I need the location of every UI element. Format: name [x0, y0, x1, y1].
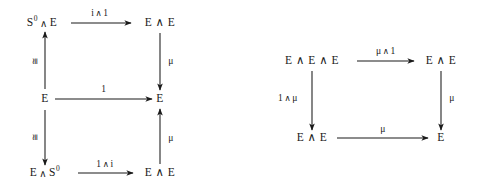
arrow-label-left-right-lower-mu: μ [168, 134, 174, 144]
node-left-middle-left: E [41, 93, 49, 105]
arrow-label-part-right: 1 [103, 8, 108, 18]
arrow-label-left-top: i∧1 [91, 9, 108, 19]
node-text-base: S [27, 16, 34, 28]
arrow-label-right-top: μ∧1 [376, 47, 396, 57]
wedge-icon: ∧ [102, 159, 111, 169]
arrow-label-left-upper-iso: ≅ [31, 57, 40, 65]
arrow-label-right-right-vertical: μ [449, 94, 455, 104]
arrow-label-left-bottom: 1∧i [96, 160, 113, 170]
wedge-icon: ∧ [283, 93, 292, 103]
node-left-top-right: E ∧ E [145, 17, 176, 29]
wedge-icon: ∧ [38, 18, 50, 29]
node-text-exponent: 0 [56, 164, 60, 173]
arrow-label-part-left: μ [376, 46, 382, 56]
node-right-bottom-right: E [437, 132, 445, 144]
arrow-label-part-right: i [110, 159, 113, 169]
node-left-middle-right: E [156, 93, 164, 105]
arrow-layer [0, 0, 478, 195]
arrow-label-left-lower-iso: ≅ [31, 133, 40, 141]
wedge-icon: ∧ [95, 8, 104, 18]
wedge-icon: ∧ [37, 168, 49, 179]
arrow-label-left-middle: 1 [101, 85, 106, 95]
node-left-bottom-right: E ∧ E [145, 167, 176, 179]
node-right-top-left: E ∧ E ∧ E [285, 55, 339, 67]
node-left-top-left: S0∧E [27, 17, 58, 29]
arrow-label-part-right: μ [292, 93, 298, 103]
arrow-label-right-left-vertical: 1∧μ [278, 94, 298, 104]
node-text-base: E [30, 166, 38, 178]
arrow-label-left-right-upper-mu: μ [168, 57, 174, 67]
arrow-label-right-bottom: μ [380, 125, 386, 135]
wedge-icon: ∧ [382, 46, 391, 56]
node-right-bottom-left: E ∧ E [297, 132, 328, 144]
node-left-bottom-left: E∧S0 [30, 167, 61, 179]
node-text-partner: E [50, 16, 58, 28]
diagram-canvas: S0∧E E ∧ E E E E∧S0 E ∧ E i∧1 1 1∧i ≅ ≅ … [0, 0, 478, 195]
node-right-top-right: E ∧ E [426, 55, 457, 67]
arrow-label-part-right: 1 [391, 46, 396, 56]
